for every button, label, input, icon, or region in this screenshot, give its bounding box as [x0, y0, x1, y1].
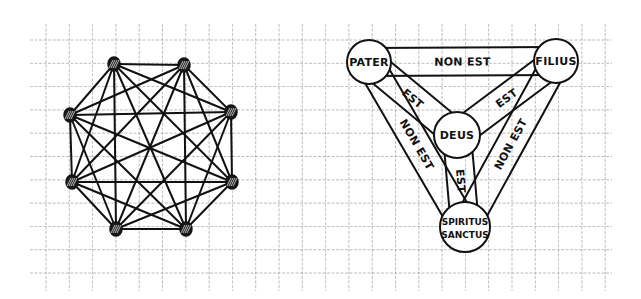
graph-vertex	[66, 175, 78, 189]
graph-edge	[70, 64, 114, 115]
graph-vertex	[110, 222, 122, 236]
graph-edge	[70, 115, 72, 182]
graph-edge	[184, 65, 231, 112]
trinity-node-pater: PATER	[347, 40, 391, 84]
complete-graph-k8	[64, 57, 238, 236]
complete-graph-edges	[70, 64, 232, 229]
graph-edge	[114, 64, 184, 65]
graph-edge	[186, 182, 232, 229]
edge-band-line	[369, 75, 556, 76]
node-circle	[440, 202, 490, 252]
graph-vertex	[180, 222, 192, 236]
trinity-node-spiritus: SPIRITUSSANCTUS	[440, 202, 490, 252]
graph-edge	[116, 112, 231, 229]
edge-label: EST	[453, 169, 468, 194]
node-label: DEUS	[440, 129, 475, 142]
graph-edge	[70, 112, 231, 115]
shield-of-trinity-diagram: NON ESTESTESTESTNON ESTNON EST PATERFILI…	[347, 39, 578, 252]
graph-vertex	[178, 58, 190, 72]
edge-band-line	[369, 47, 556, 48]
graph-edge	[70, 115, 186, 229]
graph-vertex	[225, 105, 237, 119]
graph-vertex	[64, 108, 76, 122]
graph-vertex	[226, 175, 238, 189]
graph-edge	[114, 64, 232, 182]
trinity-nodes: PATERFILIUSDEUSSPIRITUSSANCTUS	[347, 39, 578, 252]
node-label-line2: SANCTUS	[441, 230, 489, 240]
trinity-node-filius: FILIUS	[534, 39, 578, 83]
graph-edge	[231, 112, 232, 182]
graph-vertex	[108, 57, 120, 71]
node-label: FILIUS	[535, 55, 576, 68]
edge-label: NON EST	[492, 116, 531, 172]
node-label: PATER	[349, 56, 389, 69]
graph-edge	[72, 182, 116, 229]
node-label-line1: SPIRITUS	[442, 217, 489, 227]
trinity-node-deus: DEUS	[434, 112, 480, 158]
edge-label: NON EST	[397, 117, 437, 173]
edge-label: NON EST	[434, 55, 491, 68]
graph-paper-diagram: NON ESTESTESTESTNON ESTNON EST PATERFILI…	[0, 0, 641, 299]
